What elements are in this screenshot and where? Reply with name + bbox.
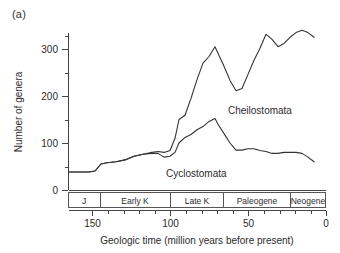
- y-tick-label-0: 0: [52, 185, 58, 196]
- x-axis-title: Geologic time (million years before pres…: [100, 235, 293, 246]
- y-tick-label-200: 200: [41, 91, 58, 102]
- epoch-label-j: J: [82, 196, 86, 206]
- series-line-cheilostomata: [69, 30, 314, 172]
- x-tick-label-0: 0: [323, 218, 329, 229]
- y-tick-label-100: 100: [41, 138, 58, 149]
- epoch-label-late-k: Late K: [185, 196, 210, 206]
- epoch-label-paleogene: Paleogene: [237, 196, 278, 206]
- y-axis-title: Number of genera: [13, 71, 24, 152]
- x-tick-label-150: 150: [84, 218, 101, 229]
- geologic-time-scale-bar: J Early K Late K Paleogene Neogene: [69, 193, 326, 208]
- series-label-cyclostomata: Cyclostomata: [166, 168, 227, 179]
- x-axis-major-ticks: [93, 211, 327, 217]
- y-axis-minor-ticks: [65, 36, 68, 167]
- series-line-cyclostomata: [69, 119, 314, 172]
- x-tick-label-50: 50: [243, 218, 255, 229]
- y-tick-label-300: 300: [41, 44, 58, 55]
- figure-panel: (a) 0 100 200 300 Number of genera: [0, 0, 340, 253]
- series-label-cheilostomata: Cheilostomata: [228, 105, 292, 116]
- genera-diversity-line-chart: 0 100 200 300 Number of genera Cheilosto…: [0, 0, 340, 253]
- x-tick-label-100: 100: [162, 218, 179, 229]
- epoch-label-early-k: Early K: [121, 196, 149, 206]
- epoch-label-neogene: Neogene: [291, 196, 326, 206]
